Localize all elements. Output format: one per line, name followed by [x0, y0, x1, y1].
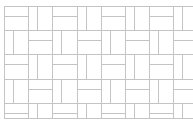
tile-block — [77, 103, 102, 119]
brick-tile — [28, 40, 53, 55]
brick-tile — [86, 103, 102, 119]
brick-tile — [37, 103, 53, 119]
tile-block — [52, 6, 78, 31]
tile-block — [101, 54, 126, 80]
tile-block — [173, 6, 193, 31]
brick-tile — [134, 54, 150, 80]
tile-block — [149, 6, 174, 31]
brick-tile — [110, 30, 126, 55]
tile-block — [77, 6, 102, 31]
tile-block — [125, 30, 150, 55]
brick-tile — [173, 40, 193, 55]
brick-tile — [52, 64, 78, 80]
tile-block — [52, 103, 78, 119]
brick-tile — [149, 16, 174, 31]
brick-tile — [149, 64, 174, 80]
basket-weave-pattern — [0, 0, 193, 123]
tile-block — [28, 6, 53, 31]
brick-tile — [4, 64, 29, 80]
brick-tile — [61, 30, 78, 55]
tile-block — [125, 6, 150, 31]
brick-tile — [101, 64, 126, 80]
tile-block — [4, 54, 29, 80]
tile-block — [28, 79, 53, 104]
tile-block — [77, 79, 102, 104]
brick-tile — [52, 16, 78, 31]
tile-block — [4, 30, 29, 55]
brick-tile — [110, 79, 126, 104]
tile-block — [28, 30, 53, 55]
tile-block — [101, 79, 126, 104]
tile-block — [101, 103, 126, 119]
brick-tile — [101, 113, 126, 119]
brick-tile — [125, 40, 150, 55]
brick-tile — [77, 89, 102, 104]
brick-tile — [182, 103, 193, 119]
brick-tile — [125, 89, 150, 104]
tile-block — [173, 30, 193, 55]
brick-tile — [101, 16, 126, 31]
tile-block — [149, 30, 174, 55]
tile-block — [4, 6, 29, 31]
tile-block — [173, 54, 193, 80]
brick-tile — [52, 113, 78, 119]
tile-block — [28, 103, 53, 119]
tile-block — [149, 103, 174, 119]
tile-block — [149, 54, 174, 80]
brick-tile — [13, 30, 29, 55]
brick-tile — [61, 79, 78, 104]
tile-block — [173, 79, 193, 104]
brick-tile — [37, 6, 53, 31]
tile-block — [28, 54, 53, 80]
tile-block — [173, 103, 193, 119]
tile-block — [101, 6, 126, 31]
tile-block — [77, 30, 102, 55]
brick-tile — [134, 6, 150, 31]
tile-block — [52, 79, 78, 104]
brick-tile — [182, 54, 193, 80]
brick-tile — [28, 89, 53, 104]
brick-tile — [182, 6, 193, 31]
brick-tile — [158, 79, 174, 104]
tile-block — [101, 30, 126, 55]
brick-tile — [134, 103, 150, 119]
tile-block — [4, 103, 29, 119]
brick-tile — [4, 113, 29, 119]
tile-block — [149, 79, 174, 104]
brick-tile — [173, 89, 193, 104]
brick-tile — [86, 54, 102, 80]
brick-tile — [13, 79, 29, 104]
tile-block — [52, 30, 78, 55]
tile-block — [52, 54, 78, 80]
tile-block — [77, 54, 102, 80]
brick-tile — [77, 40, 102, 55]
tile-block — [125, 103, 150, 119]
brick-tile — [149, 113, 174, 119]
brick-tile — [37, 54, 53, 80]
tile-block — [4, 79, 29, 104]
brick-tile — [86, 6, 102, 31]
tile-block — [125, 54, 150, 80]
brick-tile — [158, 30, 174, 55]
tile-block — [125, 79, 150, 104]
brick-tile — [4, 16, 29, 31]
